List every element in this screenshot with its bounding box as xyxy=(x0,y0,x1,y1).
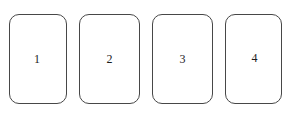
card-2-label: 2 xyxy=(107,53,113,65)
card-2[interactable]: 2 xyxy=(79,14,140,104)
card-4[interactable]: 4 xyxy=(225,14,282,104)
card-4-label: 4 xyxy=(252,52,258,64)
card-3[interactable]: 3 xyxy=(152,14,213,104)
card-1-label: 1 xyxy=(34,53,40,65)
card-1[interactable]: 1 xyxy=(9,14,67,104)
card-row-canvas: 1 2 3 4 xyxy=(0,0,287,116)
card-3-label: 3 xyxy=(180,53,186,65)
